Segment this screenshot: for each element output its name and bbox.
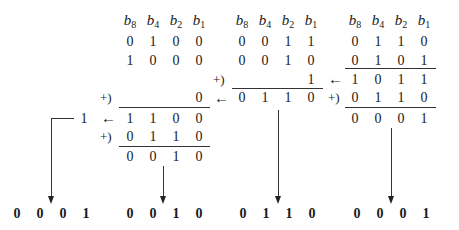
digit: 0 — [417, 90, 431, 106]
carry-out-digit: 1 — [77, 111, 91, 127]
final-digit: 0 — [350, 206, 364, 222]
final-digit: 1 — [79, 206, 93, 222]
digit: 0 — [169, 111, 183, 127]
digit: 1 — [281, 53, 295, 69]
plus-sign: +) — [100, 129, 112, 145]
left-arrow-icon: ← — [101, 110, 116, 126]
header-b2: b2 — [281, 12, 295, 33]
digit: 0 — [394, 111, 408, 127]
digit: 1 — [394, 90, 408, 106]
digit: 0 — [146, 149, 160, 165]
digit: 0 — [192, 53, 206, 69]
digit: 1 — [123, 111, 137, 127]
digit: 1 — [146, 34, 160, 50]
plus-sign: +) — [328, 90, 340, 106]
digit: 1 — [417, 72, 431, 88]
carry-in-digit: 1 — [304, 72, 318, 88]
final-digit: 0 — [146, 206, 160, 222]
plus-sign: +) — [100, 90, 112, 106]
digit: 1 — [169, 129, 183, 145]
digit: 1 — [304, 34, 318, 50]
digit: 1 — [258, 90, 272, 106]
digit: 0 — [192, 111, 206, 127]
digit: 0 — [192, 34, 206, 50]
final-digit: 0 — [56, 206, 70, 222]
header-b1: b1 — [304, 12, 318, 33]
digit: 0 — [123, 34, 137, 50]
final-digit: 0 — [236, 206, 250, 222]
digit: 0 — [235, 90, 249, 106]
final-digit: 0 — [10, 206, 24, 222]
digit: 0 — [192, 129, 206, 145]
digit: 0 — [235, 34, 249, 50]
digit: 1 — [371, 34, 385, 50]
digit: 0 — [235, 53, 249, 69]
digit: 0 — [348, 90, 362, 106]
final-digit: 1 — [419, 206, 433, 222]
digit: 0 — [123, 149, 137, 165]
left-arrow-icon: ← — [214, 90, 229, 106]
final-digit: 1 — [169, 206, 183, 222]
digit: 1 — [417, 53, 431, 69]
digit: 0 — [123, 129, 137, 145]
carry-in-digit: 0 — [192, 90, 206, 106]
header-b1: b1 — [192, 12, 206, 33]
digit: 0 — [371, 111, 385, 127]
header-b4: b4 — [146, 12, 160, 33]
header-b8: b8 — [123, 12, 137, 33]
digit: 0 — [304, 90, 318, 106]
digit: 1 — [371, 90, 385, 106]
header-b4: b4 — [258, 12, 272, 33]
sum-line — [345, 68, 436, 69]
result-down-line — [391, 128, 392, 196]
final-digit: 0 — [373, 206, 387, 222]
digit: 0 — [371, 72, 385, 88]
digit: 1 — [281, 34, 295, 50]
result-down-line — [278, 110, 279, 196]
plus-sign: +) — [213, 72, 225, 88]
header-b2: b2 — [394, 12, 408, 33]
sum-line — [119, 107, 210, 108]
carry-down-line — [51, 118, 52, 196]
header-b8: b8 — [348, 12, 362, 33]
header-b1: b1 — [417, 12, 431, 33]
final-digit: 0 — [123, 206, 137, 222]
digit: 1 — [281, 90, 295, 106]
sum-line — [119, 146, 210, 147]
digit: 1 — [394, 72, 408, 88]
digit: 0 — [146, 53, 160, 69]
digit: 0 — [258, 34, 272, 50]
arrow-down-icon — [160, 196, 166, 204]
digit: 1 — [394, 34, 408, 50]
header-b2: b2 — [169, 12, 183, 33]
digit: 0 — [304, 53, 318, 69]
left-arrow-icon: ← — [328, 71, 343, 87]
arrow-down-icon — [275, 196, 281, 204]
sum-line — [345, 107, 436, 108]
final-digit: 0 — [192, 206, 206, 222]
final-digit: 0 — [396, 206, 410, 222]
final-digit: 0 — [305, 206, 319, 222]
digit: 1 — [371, 53, 385, 69]
carry-line — [51, 118, 74, 119]
digit: 0 — [348, 34, 362, 50]
digit: 0 — [169, 34, 183, 50]
header-b8: b8 — [235, 12, 249, 33]
digit: 0 — [192, 149, 206, 165]
final-digit: 0 — [33, 206, 47, 222]
arrow-down-icon — [48, 196, 54, 204]
digit: 0 — [169, 53, 183, 69]
sum-line — [232, 88, 323, 89]
digit: 0 — [348, 53, 362, 69]
digit: 1 — [123, 53, 137, 69]
digit: 1 — [146, 129, 160, 145]
digit: 0 — [348, 111, 362, 127]
digit: 1 — [146, 111, 160, 127]
header-b4: b4 — [371, 12, 385, 33]
digit: 0 — [394, 53, 408, 69]
digit: 0 — [258, 53, 272, 69]
result-down-line — [163, 166, 164, 196]
digit: 1 — [348, 72, 362, 88]
arrow-down-icon — [388, 196, 394, 204]
digit: 1 — [169, 149, 183, 165]
